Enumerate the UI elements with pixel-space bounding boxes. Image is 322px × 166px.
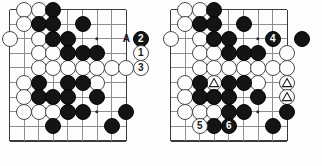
black-stone[interactable] [75,45,91,61]
white-stone[interactable] [206,104,222,120]
black-stone[interactable] [192,16,208,32]
white-stone[interactable] [265,60,281,76]
white-stone[interactable] [279,75,295,91]
black-stone[interactable] [192,75,208,91]
white-stone[interactable] [16,104,32,120]
black-stone[interactable] [236,75,252,91]
black-stone[interactable] [294,31,310,47]
white-stone[interactable] [16,89,32,105]
stone-move-number: 6 [222,119,236,133]
black-stone[interactable] [279,104,295,120]
go-board-left[interactable]: 213A [0,0,161,166]
black-stone[interactable] [221,104,237,120]
white-stone[interactable] [192,45,208,61]
black-stone[interactable] [206,118,222,134]
black-stone[interactable] [60,75,76,91]
black-stone[interactable] [206,2,222,18]
white-stone[interactable] [192,60,208,76]
black-stone[interactable] [60,31,76,47]
white-stone[interactable] [31,60,47,76]
point-label-a: A [123,34,130,44]
black-stone[interactable] [221,89,237,105]
black-stone[interactable] [60,89,76,105]
black-stone[interactable] [221,45,237,61]
white-stone[interactable] [279,45,295,61]
white-stone[interactable] [31,45,47,61]
numbered-stone-black-2[interactable]: 2 [133,31,149,47]
numbered-stone-white-3[interactable]: 3 [133,60,149,76]
numbered-stone-white-5[interactable]: 5 [192,118,208,134]
black-stone[interactable] [75,104,91,120]
panel-left-diagram: 213A [0,0,161,166]
black-stone[interactable] [89,89,105,105]
black-stone[interactable] [45,89,61,105]
white-stone[interactable] [192,104,208,120]
white-stone[interactable] [45,45,61,61]
white-stone[interactable] [250,75,266,91]
white-stone[interactable] [177,16,193,32]
white-stone[interactable] [192,2,208,18]
go-board-right[interactable]: 456 [161,0,322,166]
white-stone[interactable] [206,60,222,76]
white-stone[interactable] [45,104,61,120]
white-stone[interactable] [221,60,237,76]
white-stone[interactable] [206,45,222,61]
white-stone[interactable] [177,89,193,105]
white-stone[interactable] [89,60,105,76]
white-stone[interactable] [177,104,193,120]
black-stone[interactable] [221,75,237,91]
black-stone[interactable] [75,75,91,91]
black-stone[interactable] [45,31,61,47]
black-stone[interactable] [250,89,266,105]
white-stone[interactable] [192,31,208,47]
black-stone[interactable] [236,16,252,32]
numbered-stone-white-1[interactable]: 1 [133,45,149,61]
black-stone[interactable] [236,45,252,61]
black-stone[interactable] [45,2,61,18]
black-stone[interactable] [45,118,61,134]
black-stone[interactable] [192,89,208,105]
white-stone[interactable] [16,75,32,91]
white-stone[interactable] [118,60,134,76]
black-stone[interactable] [265,118,281,134]
white-stone[interactable] [177,2,193,18]
white-stone[interactable] [279,60,295,76]
black-stone[interactable] [31,75,47,91]
white-stone[interactable] [31,31,47,47]
white-stone[interactable] [250,60,266,76]
black-stone[interactable] [104,118,120,134]
star-point [256,37,259,40]
black-stone[interactable] [206,89,222,105]
black-stone[interactable] [206,31,222,47]
black-stone[interactable] [221,31,237,47]
white-stone[interactable] [60,60,76,76]
white-stone[interactable] [16,16,32,32]
stone-move-number: 2 [134,32,148,46]
white-stone[interactable] [279,89,295,105]
white-stone[interactable] [16,2,32,18]
white-stone[interactable] [163,31,179,47]
black-stone[interactable] [31,16,47,32]
white-stone[interactable] [89,75,105,91]
black-stone[interactable] [118,104,134,120]
white-stone[interactable] [75,60,91,76]
white-stone[interactable] [177,75,193,91]
white-stone[interactable] [2,31,18,47]
black-stone[interactable] [60,45,76,61]
black-stone[interactable] [236,104,252,120]
white-stone[interactable] [31,104,47,120]
black-stone[interactable] [60,104,76,120]
black-stone[interactable] [45,16,61,32]
white-stone[interactable] [206,75,222,91]
numbered-stone-black-4[interactable]: 4 [265,31,281,47]
black-stone[interactable] [206,16,222,32]
white-stone[interactable] [31,2,47,18]
numbered-stone-black-6[interactable]: 6 [221,118,237,134]
black-stone[interactable] [250,45,266,61]
black-stone[interactable] [89,45,105,61]
black-stone[interactable] [31,89,47,105]
white-stone[interactable] [104,60,120,76]
black-stone[interactable] [75,16,91,32]
white-stone[interactable] [45,60,61,76]
white-stone[interactable] [236,60,252,76]
